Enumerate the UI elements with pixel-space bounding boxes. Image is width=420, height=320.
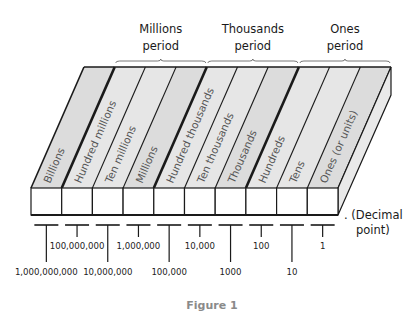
front-face-boxes [31, 188, 338, 215]
period-bracket [208, 59, 298, 63]
place-value-number: 100,000,000 [50, 241, 105, 251]
place-value-number: 100,000 [151, 267, 187, 277]
front-box [62, 188, 93, 215]
period-brackets: MillionsperiodThousandsperiodOnesperiod [116, 22, 390, 63]
place-value-number: 10 [286, 267, 297, 277]
figure-caption: Figure 1 [186, 299, 237, 312]
place-value-number: 1,000,000 [117, 241, 161, 251]
place-value-number: 1,000,000,000 [15, 267, 78, 277]
front-box [307, 188, 338, 215]
place-value-number: 1 [320, 241, 325, 251]
place-value-number: 10,000 [185, 241, 215, 251]
value-ticks: 1,000,000,000100,000,00010,000,0001,000,… [15, 225, 335, 277]
period-bracket [116, 59, 206, 63]
front-box [154, 188, 185, 215]
period-label-line2: period [142, 39, 179, 53]
period-label-line1: Millions [139, 22, 182, 36]
place-value-number: 100 [253, 241, 269, 251]
period-bracket [300, 59, 390, 63]
period-label-line1: Ones [330, 22, 359, 36]
decimal-point-label-line2: point) [356, 223, 390, 237]
place-value-number: 10,000,000 [83, 267, 132, 277]
front-box [246, 188, 277, 215]
front-box [277, 188, 308, 215]
period-label-line1: Thousands [221, 22, 284, 36]
front-box [31, 188, 62, 215]
front-box [123, 188, 154, 215]
front-box [215, 188, 246, 215]
decimal-point-label-line1: . (Decimal [344, 208, 403, 222]
front-box [185, 188, 216, 215]
period-label-line2: period [235, 39, 272, 53]
place-value-diagram: BillionsHundred millionsTen millionsMill… [0, 0, 420, 320]
place-value-number: 1000 [220, 267, 242, 277]
front-box [92, 188, 123, 215]
period-label-line2: period [327, 39, 364, 53]
